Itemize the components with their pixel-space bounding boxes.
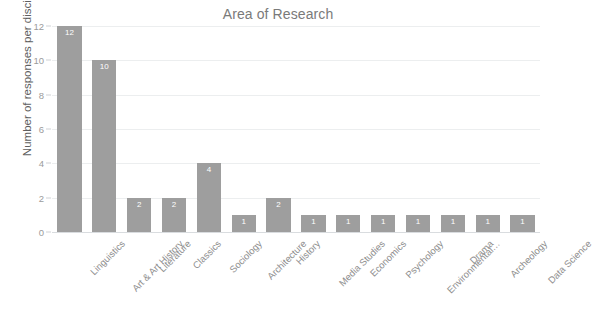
bar-value-label: 1 — [232, 217, 256, 227]
bar[interactable]: 1 — [476, 215, 500, 232]
bar-value-label: 1 — [301, 217, 325, 227]
y-tick-mark — [46, 163, 51, 164]
bar[interactable]: 2 — [162, 198, 186, 232]
bar[interactable]: 1 — [371, 215, 395, 232]
gridline — [52, 95, 540, 96]
y-tick-label: 2 — [0, 192, 44, 203]
y-tick-label: 0 — [0, 227, 44, 238]
y-tick-label: 4 — [0, 158, 44, 169]
bar[interactable]: 2 — [127, 198, 151, 232]
bar-value-label: 2 — [162, 200, 186, 210]
gridline — [52, 198, 540, 199]
bar[interactable]: 4 — [197, 163, 221, 232]
y-tick-mark — [46, 94, 51, 95]
y-tick-mark — [46, 26, 51, 27]
bar-value-label: 1 — [441, 217, 465, 227]
gridline — [52, 26, 540, 27]
x-axis-labels: LinguisticsArt & Art HistoryLiteratureCl… — [52, 234, 540, 312]
bar-value-label: 1 — [510, 217, 534, 227]
bar-value-label: 1 — [336, 217, 360, 227]
bar-value-label: 2 — [127, 200, 151, 210]
bar-value-label: 12 — [57, 28, 81, 38]
bar[interactable]: 1 — [510, 215, 534, 232]
gridline — [52, 60, 540, 61]
bar-value-label: 1 — [476, 217, 500, 227]
bar-value-label: 2 — [266, 200, 290, 210]
bar[interactable]: 1 — [232, 215, 256, 232]
y-tick-label: 10 — [0, 55, 44, 66]
x-tick-label: Psychology — [403, 238, 445, 280]
y-tick-label: 8 — [0, 89, 44, 100]
y-tick-mark — [46, 197, 51, 198]
bar[interactable]: 1 — [441, 215, 465, 232]
bar-value-label: 1 — [371, 217, 395, 227]
x-tick-label: Sociology — [227, 238, 264, 275]
x-tick-label: Archeology — [508, 238, 549, 279]
x-tick-label: Linguistics — [88, 238, 127, 277]
bar-value-label: 1 — [406, 217, 430, 227]
y-tick-mark — [46, 60, 51, 61]
x-tick-label: Classics — [190, 238, 223, 271]
bar-value-label: 10 — [92, 62, 116, 72]
chart-title: Area of Research — [0, 6, 556, 22]
gridline — [52, 163, 540, 164]
x-tick-label: Data Science — [545, 238, 593, 286]
bar[interactable]: 12 — [57, 26, 81, 232]
y-tick-label: 6 — [0, 124, 44, 135]
bar-value-label: 4 — [197, 165, 221, 175]
y-tick-label: 12 — [0, 21, 44, 32]
y-tick-mark — [46, 232, 51, 233]
y-tick-mark — [46, 129, 51, 130]
bar[interactable]: 2 — [266, 198, 290, 232]
bar[interactable]: 1 — [406, 215, 430, 232]
bar[interactable]: 1 — [336, 215, 360, 232]
plot-area: 1210224121111111 — [52, 26, 540, 232]
bar[interactable]: 10 — [92, 60, 116, 232]
bar[interactable]: 1 — [301, 215, 325, 232]
gridline — [52, 129, 540, 130]
gridline — [52, 232, 540, 233]
